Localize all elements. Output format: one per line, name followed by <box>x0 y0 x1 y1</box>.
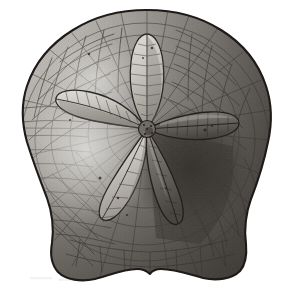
illustration-plate <box>0 0 282 288</box>
echinoid-specimen-illustration <box>0 0 282 288</box>
